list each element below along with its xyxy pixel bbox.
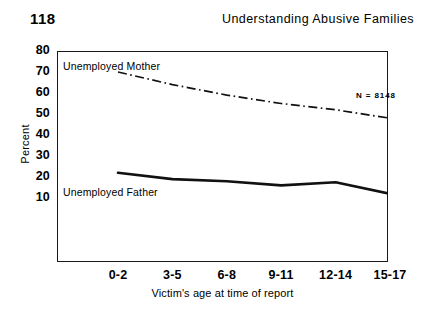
- x-tick-label: 12-14: [311, 268, 361, 282]
- x-axis-title: Victim's age at time of report: [57, 287, 388, 299]
- y-tick-label: 70: [24, 64, 50, 78]
- x-tick-label: 9-11: [256, 268, 306, 282]
- page-number: 118: [30, 10, 56, 27]
- x-tick-label: 6-8: [202, 268, 252, 282]
- x-tick-label: 15-17: [365, 268, 415, 282]
- series-line-unemployed-mother: [118, 72, 388, 118]
- series-line-unemployed-father: [118, 173, 388, 194]
- plot-series-svg: [57, 51, 388, 262]
- y-tick-label: 10: [24, 190, 50, 204]
- series-label-unemployed-mother: Unemployed Mother: [63, 60, 160, 72]
- x-tick-label: 0-2: [93, 268, 143, 282]
- y-tick-label: 30: [24, 148, 50, 162]
- x-tick-label: 3-5: [147, 268, 197, 282]
- y-tick-label: 40: [24, 127, 50, 141]
- y-tick-label: 50: [24, 106, 50, 120]
- running-head: Understanding Abusive Families: [222, 12, 414, 26]
- sample-size-annotation: N = 8148: [356, 91, 396, 100]
- y-tick-label: 80: [24, 43, 50, 57]
- series-label-unemployed-father: Unemployed Father: [63, 186, 158, 198]
- page-header: 118 Understanding Abusive Families: [0, 0, 436, 34]
- y-tick-label: 60: [24, 85, 50, 99]
- y-tick-label: 20: [24, 169, 50, 183]
- figure-line-chart: Percent 8070605040302010 0-23-56-89-1112…: [0, 34, 436, 312]
